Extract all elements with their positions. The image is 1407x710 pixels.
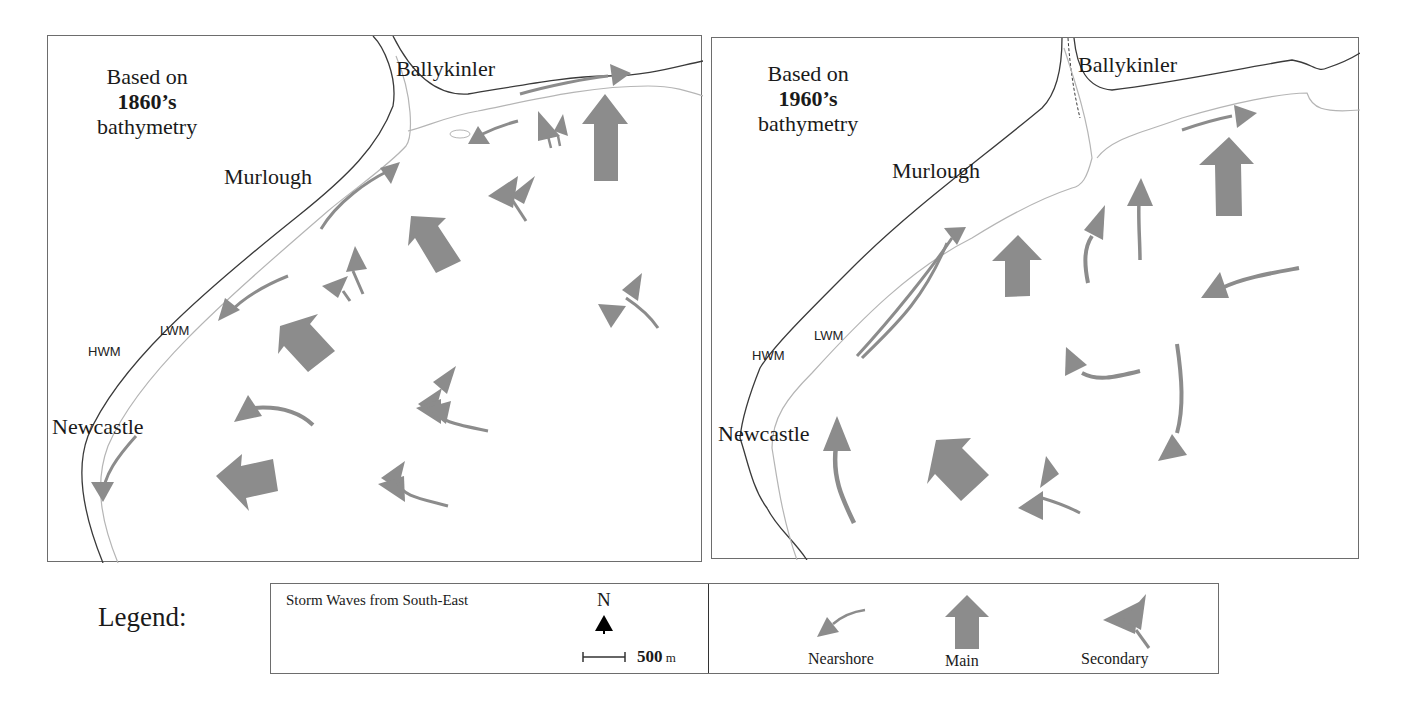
nearshore-arrow <box>1065 347 1140 378</box>
place-ballykinler: Ballykinler <box>1078 52 1177 78</box>
map-1860s-title: Based on 1860’s bathymetry <box>97 64 197 139</box>
secondary-arrow <box>488 176 535 221</box>
secondary-arrow <box>378 461 448 506</box>
place-murlough: Murlough <box>892 158 980 184</box>
nearshore-arrow <box>91 436 136 502</box>
legend-condition: Storm Waves from South-East <box>286 592 468 609</box>
main-arrow <box>992 235 1042 297</box>
map-1960s-title: Based on 1960’s bathymetry <box>758 61 858 136</box>
main-arrow <box>927 438 989 501</box>
main-arrow <box>1199 137 1254 216</box>
nearshore-arrow <box>1084 205 1105 283</box>
map-1960s: Based on 1960’s bathymetry Ballykinler M… <box>711 37 1359 559</box>
legend-label-secondary: Secondary <box>1081 650 1149 668</box>
title-prefix: Based on <box>106 64 187 89</box>
nearshore-arrow <box>1127 178 1153 260</box>
hwm-label: HWM <box>88 344 121 359</box>
nearshore-arrow <box>1182 105 1257 130</box>
nearshore-arrow <box>520 64 631 94</box>
legend-box: Storm Waves from South-East N 500 m Near… <box>270 583 1219 674</box>
place-newcastle: Newcastle <box>52 414 144 440</box>
place-ballykinler: Ballykinler <box>396 56 495 82</box>
title-prefix: Based on <box>767 61 848 86</box>
north-label: N <box>597 589 611 611</box>
secondary-arrow <box>1018 456 1080 520</box>
legend-divider <box>708 584 709 673</box>
legend-label-nearshore: Nearshore <box>808 650 874 668</box>
nearshore-arrow <box>1201 268 1299 298</box>
title-suffix: bathymetry <box>758 111 858 136</box>
nearshore-arrow-icon <box>811 602 871 642</box>
hwm-label: HWM <box>752 348 785 363</box>
main-arrow <box>408 216 461 273</box>
title-suffix: bathymetry <box>97 114 197 139</box>
lwm-label: LWM <box>160 323 189 338</box>
main-arrow <box>216 454 278 511</box>
nearshore-arrow <box>857 227 966 356</box>
scale-label: 500 m <box>637 647 676 667</box>
nearshore-arrow <box>468 121 518 144</box>
nearshore-arrow <box>321 162 400 229</box>
legend-label-main: Main <box>945 652 979 670</box>
nearshore-arrow <box>234 395 313 425</box>
legend-caption: Legend: <box>98 602 186 633</box>
secondary-arrow <box>598 273 658 328</box>
main-arrow <box>278 314 335 372</box>
map-1860s: Based on 1860’s bathymetry Ballykinler M… <box>47 35 702 562</box>
secondary-arrow <box>538 111 568 148</box>
nearshore-arrow <box>823 416 854 523</box>
main-arrow <box>582 94 628 181</box>
place-murlough: Murlough <box>224 164 312 190</box>
lwm-label: LWM <box>814 328 843 343</box>
secondary-arrow <box>322 246 367 301</box>
secondary-arrow-icon <box>1101 592 1161 652</box>
scale-unit: m <box>666 650 676 665</box>
title-year: 1960’s <box>758 86 858 111</box>
secondary-arrow <box>416 388 488 431</box>
place-newcastle: Newcastle <box>718 421 810 447</box>
scale-value: 500 <box>637 647 663 666</box>
nearshore-arrow <box>1158 344 1187 461</box>
title-year: 1860’s <box>97 89 197 114</box>
main-arrow-icon <box>943 594 991 650</box>
scale-bar-icon <box>581 650 629 664</box>
north-arrow-icon <box>593 613 615 635</box>
